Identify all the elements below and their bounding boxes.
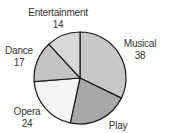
label-musical-value: 38: [118, 50, 162, 62]
label-entertainment-value: 14: [22, 19, 94, 31]
label-musical: Musical 38: [118, 38, 162, 62]
label-dance-value: 17: [3, 57, 35, 69]
label-entertainment-name: Entertainment: [22, 7, 94, 19]
label-opera-value: 24: [12, 118, 42, 130]
label-play-name: Play: [104, 120, 132, 132]
label-entertainment: Entertainment 14: [22, 7, 94, 31]
label-musical-name: Musical: [118, 38, 162, 50]
label-play: Play: [104, 120, 132, 132]
label-dance-name: Dance: [3, 45, 35, 57]
label-dance: Dance 17: [3, 45, 35, 69]
label-opera-name: Opera: [12, 106, 42, 118]
label-opera: Opera 24: [12, 106, 42, 130]
